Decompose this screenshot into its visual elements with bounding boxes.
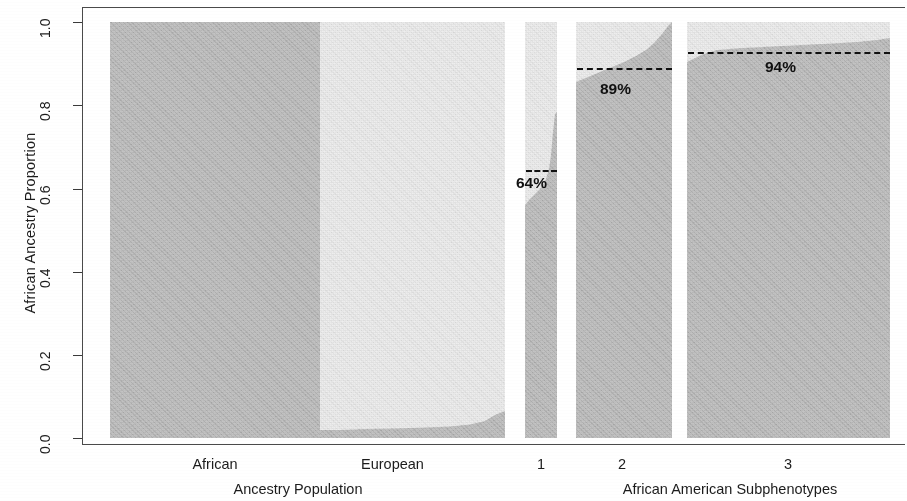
plot-area: 64% 89% 94% [0, 0, 907, 501]
mean-line-subphenotype-3 [688, 52, 890, 54]
mean-label-subphenotype-2: 89% [600, 80, 631, 98]
african-ancestry-fill [525, 22, 557, 438]
x-label-african: African [160, 456, 270, 472]
x-label-subphenotype-1: 1 [527, 456, 555, 472]
panel-subphenotype-1 [525, 22, 557, 438]
african-ancestry-fill [687, 22, 890, 438]
mean-line-subphenotype-1 [526, 170, 557, 172]
panel-european [320, 22, 505, 438]
african-ancestry-fill [110, 22, 320, 438]
panel-subphenotype-3 [687, 22, 890, 438]
x-label-european: European [335, 456, 450, 472]
x-group-label-african-american-subphenotypes: African American Subphenotypes [560, 481, 900, 497]
panel-african [110, 22, 320, 438]
x-label-subphenotype-3: 3 [774, 456, 802, 472]
x-group-label-ancestry-population: Ancestry Population [198, 481, 398, 497]
mean-label-subphenotype-1: 64% [516, 174, 547, 192]
african-ancestry-fill [320, 22, 505, 438]
x-label-subphenotype-2: 2 [608, 456, 636, 472]
mean-line-subphenotype-2 [577, 68, 672, 70]
structure-plot-figure: African Ancestry Proportion 1.0 0.8 0.6 … [0, 0, 907, 501]
mean-label-subphenotype-3: 94% [765, 58, 796, 76]
